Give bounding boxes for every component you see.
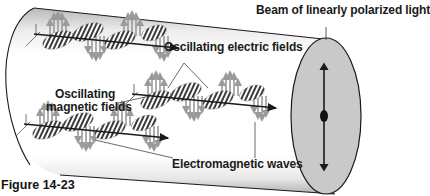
magnetic-fields-label-line2: magnetic fields (46, 101, 132, 114)
electromagnetic-waves-label: Electromagnetic waves (172, 158, 303, 171)
beam-label: Beam of linearly polarized light (256, 4, 430, 17)
electric-fields-label: Oscillating electric fields (164, 41, 303, 54)
figure-caption: Figure 14-23 (1, 178, 75, 192)
